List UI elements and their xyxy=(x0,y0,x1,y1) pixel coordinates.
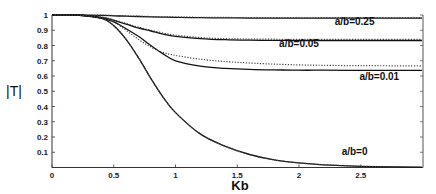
y-tick-label: 0.5 xyxy=(37,87,49,96)
y-tick-label: 0.3 xyxy=(37,118,49,127)
data-series xyxy=(52,15,422,167)
transmission-chart: 0.10.20.30.40.50.60.70.80.91 00.511.522.… xyxy=(0,0,436,194)
y-axis-ticks: 0.10.20.30.40.50.60.70.80.91 xyxy=(37,11,423,157)
y-tick-label: 0.9 xyxy=(37,26,49,35)
y-tick-label: 0.2 xyxy=(37,133,49,142)
y-tick-label: 0.7 xyxy=(37,57,49,66)
x-tick-label: 0 xyxy=(50,171,55,180)
y-tick-label: 0.6 xyxy=(37,72,49,81)
y-tick-label: 1 xyxy=(44,11,49,20)
x-tick-label: 0.5 xyxy=(108,171,120,180)
y-tick-label: 0.4 xyxy=(37,103,49,112)
y-tick-label: 0.8 xyxy=(37,42,49,51)
series-annotation: a/b=0.01 xyxy=(359,71,399,82)
x-axis-ticks: 00.511.522.5 xyxy=(50,165,367,180)
series-annotation: a/b=0.25 xyxy=(335,16,375,27)
x-axis-label: Kb xyxy=(231,178,248,193)
x-tick-label: 2 xyxy=(297,171,302,180)
x-tick-label: 2.5 xyxy=(355,171,367,180)
series-a-b-0-solid xyxy=(52,15,422,167)
y-tick-label: 0.1 xyxy=(37,148,49,157)
series-annotation: a/b=0.05 xyxy=(279,38,319,49)
y-axis-label: |T| xyxy=(6,83,22,99)
series-labels: a/b=0.25a/b=0.05a/b=0.01a/b=0 xyxy=(279,16,399,157)
plot-frame xyxy=(52,15,423,168)
series-a-b-0-dotted xyxy=(52,15,398,167)
x-tick-label: 1 xyxy=(173,171,178,180)
series-annotation: a/b=0 xyxy=(342,146,368,157)
